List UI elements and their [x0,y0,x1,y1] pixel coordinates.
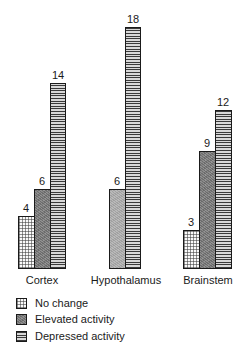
bar-brainstem-depressed [215,110,232,269]
bar-hypothalamus-elevated [109,189,126,269]
bar-cortex-depressed [50,83,66,269]
legend-swatch-no-change [16,298,27,309]
legend-label-no-change: No change [35,297,88,309]
bar-brainstem-elevated [199,151,216,269]
bar-cortex-no-change [18,216,35,269]
label-hypothalamus-depressed: 18 [121,13,145,25]
legend-swatch-elevated [16,314,27,325]
legend-swatch-depressed [16,331,27,342]
category-brainstem: Brainstem [180,274,236,286]
label-cortex-depressed: 14 [46,69,70,81]
bar-cortex-elevated [34,189,51,269]
category-hypothalamus: Hypothalamus [88,274,164,286]
bar-brainstem-no-change [183,230,200,269]
category-cortex: Cortex [17,274,67,286]
legend-label-depressed: Depressed activity [35,330,125,342]
bar-hypothalamus-depressed [125,27,141,269]
legend-label-elevated: Elevated activity [35,313,114,325]
label-brainstem-depressed: 12 [211,96,235,108]
